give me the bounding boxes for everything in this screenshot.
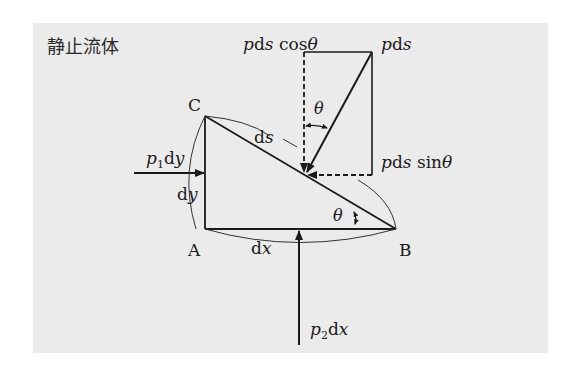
point-c-label: C: [188, 95, 201, 115]
force-p2dx-label: p2dx: [310, 319, 349, 342]
ds-arc-tick: [283, 139, 297, 147]
force-pds-label: pds: [381, 34, 412, 54]
dy-label: dy: [177, 184, 198, 204]
fluid-element-diagram: 静止流体 C A B ds dy dx θ p1dy p2dx θ pds co…: [0, 0, 573, 371]
point-a-label: A: [187, 240, 201, 260]
theta-force-arc: [306, 125, 327, 128]
edge-cb: [205, 116, 396, 229]
force-cos-label: pds cosθ: [243, 34, 318, 54]
dx-arc: [205, 229, 396, 243]
force-sin-label: pds sinθ: [381, 152, 452, 172]
force-p1dy-label: p1dy: [146, 148, 185, 171]
theta-force-label: θ: [314, 99, 324, 118]
theta-b-label: θ: [333, 206, 343, 225]
fluid-triangle: [205, 116, 396, 229]
dx-label: dx: [251, 238, 272, 258]
ds-label: ds: [254, 127, 274, 147]
ds-arc-right: [358, 180, 396, 229]
point-b-label: B: [399, 240, 412, 260]
diagram-title: 静止流体: [47, 36, 119, 57]
theta-b-arc: [354, 212, 356, 224]
